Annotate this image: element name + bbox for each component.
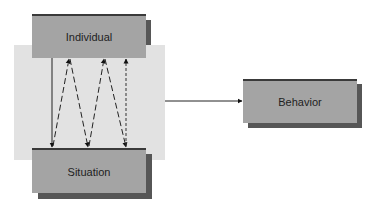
arrow-situation-to-individual-dashed-1 bbox=[53, 59, 69, 146]
arrow-situation-to-individual-dashed-2 bbox=[89, 59, 104, 146]
arrows-layer bbox=[0, 0, 384, 211]
arrow-individual-to-situation-dashed-2 bbox=[105, 59, 126, 147]
arrow-individual-to-situation-dashed-1 bbox=[70, 59, 88, 147]
